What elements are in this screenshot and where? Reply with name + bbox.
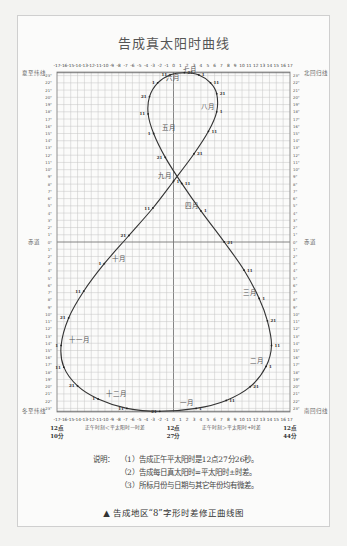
x-tick-label-top: 0	[172, 63, 175, 68]
month-label: 四月	[185, 202, 199, 210]
y-tick-label-left: 17°	[45, 362, 52, 367]
x-tick-label-top: 4	[200, 63, 203, 68]
y-tick-label-left: 8°	[48, 297, 52, 302]
x-tick-label-top: 13	[260, 63, 266, 68]
day-marker	[153, 133, 155, 135]
y-tick-label-right: 16°	[293, 124, 300, 129]
day-label: 1	[55, 343, 58, 348]
day-label: 1	[98, 261, 101, 266]
x-tick-label-bottom: 1	[179, 417, 182, 422]
x-tick-label-top: 11	[246, 63, 252, 68]
day-label: 11	[75, 289, 81, 294]
day-marker	[216, 111, 218, 113]
day-label: 21	[120, 233, 126, 238]
y-tick-label-right: 0°	[293, 240, 297, 245]
y-tick-label-left: 11°	[45, 160, 52, 165]
x-tick-label-top: 10	[239, 63, 245, 68]
day-marker	[147, 113, 149, 115]
day-marker	[210, 82, 212, 84]
y-tick-label-left: 22°	[45, 80, 52, 85]
month-label: 七月	[183, 65, 197, 74]
y-tick-label-right: 7°	[293, 290, 297, 295]
y-tick-label-right: 22°	[293, 399, 300, 404]
month-label: 十一月	[69, 335, 90, 344]
day-marker	[223, 241, 225, 243]
y-tick-label-right: 22°	[293, 80, 300, 85]
day-label: 1	[220, 109, 223, 114]
y-tick-label-left: 4°	[48, 268, 52, 273]
x-tick-label-top: -7	[123, 63, 128, 68]
y-tick-label-right: 12°	[293, 326, 300, 331]
y-tick-label-right: 3°	[293, 261, 297, 266]
day-marker	[63, 366, 65, 368]
day-label: 21	[69, 383, 75, 388]
day-label: 1	[152, 80, 155, 85]
note-1: （1）告成正午平太阳时是12点27分26秒。	[120, 453, 258, 464]
day-label: 1	[262, 296, 265, 301]
day-marker	[193, 153, 195, 155]
x-time-label: 12点	[283, 424, 297, 432]
y-tick-label-right: 20°	[293, 384, 300, 389]
day-marker	[159, 410, 161, 412]
y-tick-label-right: 3°	[293, 218, 297, 223]
y-tick-label-left: 1°	[48, 232, 52, 237]
y-tick-label-right: 17°	[293, 117, 300, 122]
y-tick-label-left: 1°	[48, 247, 52, 252]
y-tick-label-left: 3°	[48, 218, 52, 223]
y-tick-label-right: 2°	[293, 225, 297, 230]
day-label: 1	[269, 364, 272, 369]
y-tick-label-left: 6°	[48, 283, 52, 288]
equator-label-right: 赤道	[304, 238, 316, 246]
day-label: 11	[247, 268, 253, 273]
x-time-label: 27分	[167, 432, 181, 440]
x-tick-label-bottom: -6	[130, 417, 135, 422]
y-tick-label-right: 14°	[293, 341, 300, 346]
y-tick-label-left: 14°	[45, 341, 52, 346]
day-marker	[181, 183, 183, 185]
x-tick-label-top: 7	[220, 63, 223, 68]
y-tick-label-right: 16°	[293, 355, 300, 360]
day-label: 21	[60, 315, 66, 320]
x-tick-label-top: -9	[110, 63, 115, 68]
month-label: 九月	[158, 171, 172, 180]
day-label: 1	[92, 396, 95, 401]
day-marker	[60, 345, 62, 347]
day-label: 21	[197, 151, 203, 156]
summer-solstice-label: 夏至纬线	[22, 69, 46, 77]
y-tick-label-right: 19°	[293, 102, 300, 107]
y-tick-label-right: 15°	[293, 348, 300, 353]
month-label: 八月	[201, 103, 215, 111]
y-tick-label-left: 21°	[45, 391, 52, 396]
day-label: 11	[274, 343, 280, 348]
y-tick-label-right: 8°	[293, 182, 297, 187]
x-tick-label-top: -8	[117, 63, 122, 68]
y-tick-label-right: 21°	[293, 391, 300, 396]
x-tick-label-bottom: 0	[172, 417, 175, 422]
y-tick-label-left: 5°	[48, 203, 52, 208]
x-tick-label-top: -5	[137, 63, 142, 68]
y-tick-label-left: 13°	[45, 334, 52, 339]
day-marker	[258, 298, 260, 300]
x-tick-label-top: 14	[267, 63, 273, 68]
x-tick-label-bottom: 15	[274, 417, 280, 422]
x-tick-label-bottom: 8	[227, 417, 230, 422]
x-tick-label-top: 6	[213, 63, 216, 68]
y-tick-label-right: 15°	[293, 131, 300, 136]
y-tick-label-left: 23°	[45, 406, 52, 411]
y-tick-label-right: 8°	[293, 297, 297, 302]
day-label: 11	[118, 406, 124, 411]
day-label: 11	[229, 398, 235, 403]
month-label: 三月	[243, 289, 257, 297]
y-tick-label-right: 10°	[293, 312, 300, 317]
x-tick-label-bottom: 16	[280, 417, 286, 422]
y-tick-label-right: 10°	[293, 167, 300, 172]
y-tick-label-left: 15°	[45, 348, 52, 353]
y-tick-label-right: 2°	[293, 254, 297, 259]
y-tick-label-left: 19°	[45, 377, 52, 382]
y-tick-label-right: 11°	[293, 160, 300, 165]
x-tick-label-top: 12	[253, 63, 259, 68]
y-tick-label-left: 12°	[45, 153, 52, 158]
y-tick-label-left: 22°	[45, 399, 52, 404]
day-marker	[173, 180, 175, 182]
day-label: 11	[214, 80, 220, 85]
